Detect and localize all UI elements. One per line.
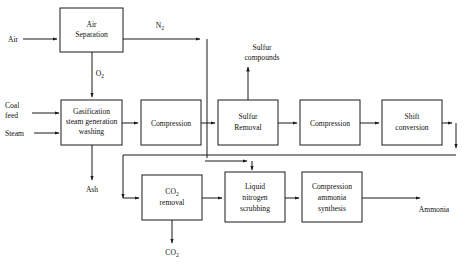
stream-label-ammonia: Ammonia bbox=[419, 205, 450, 214]
stream-label-steam: Steam bbox=[5, 129, 24, 138]
stream-label-sulfur-compounds-line2: compounds bbox=[244, 53, 279, 62]
stream-label-sulfur-compounds-line1: Sulfur bbox=[253, 43, 272, 52]
shift-conversion-label-line2: conversion bbox=[395, 123, 429, 132]
ammonia-synthesis-label-line3: synthesis bbox=[318, 204, 346, 213]
stream-label-ash: Ash bbox=[86, 185, 98, 194]
sulfur-removal-label-line1: Sulfur bbox=[239, 112, 258, 121]
gasification-label-line2: steam generation bbox=[66, 117, 118, 126]
stream-label-air: Air bbox=[8, 35, 19, 44]
process-flow-diagram: Air Separation Gasification steam genera… bbox=[0, 0, 473, 274]
ammonia-synthesis-label-line2: ammonia bbox=[318, 193, 347, 202]
stream-label-coal-feed-line1: Coal bbox=[5, 101, 19, 110]
stream-label-carbon-dioxide: CO2 bbox=[165, 248, 179, 258]
air-separation-label-line1: Air bbox=[86, 20, 97, 29]
compression-2-label: Compression bbox=[310, 119, 350, 128]
stream-label-coal-feed-line2: feed bbox=[5, 111, 18, 120]
flow-diagram-canvas: Air Separation Gasification steam genera… bbox=[0, 0, 473, 274]
liquid-nitrogen-scrubbing-label-line1: Liquid bbox=[245, 182, 265, 191]
shift-conversion-label-line1: Shift bbox=[405, 112, 421, 121]
compression-1-label: Compression bbox=[151, 119, 191, 128]
stream-label-oxygen: O2 bbox=[96, 69, 104, 79]
gasification-label-line3: washing bbox=[79, 127, 105, 136]
ammonia-synthesis-label-line1: Compression bbox=[312, 182, 352, 191]
liquid-nitrogen-scrubbing-label-line3: scrubbing bbox=[240, 204, 270, 213]
stream-label-nitrogen: N2 bbox=[156, 21, 164, 31]
sulfur-removal-label-line2: Removal bbox=[234, 123, 261, 132]
air-separation-label-line2: Separation bbox=[75, 30, 108, 39]
liquid-nitrogen-scrubbing-label-line2: nitrogen bbox=[242, 193, 268, 202]
co2-removal-label-line2: removal bbox=[160, 198, 185, 207]
gasification-label-line1: Gasification bbox=[73, 107, 110, 116]
